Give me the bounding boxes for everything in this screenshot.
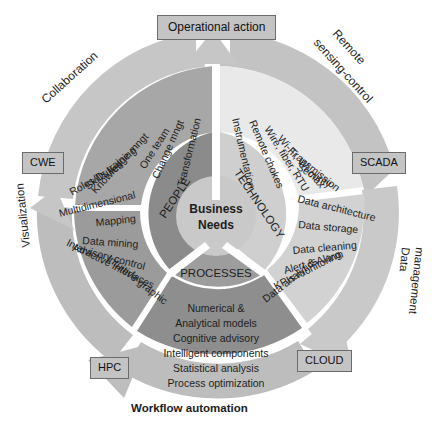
processes-item-5: Process optimization xyxy=(168,377,265,389)
processes-item-4: Statistical analysis xyxy=(173,362,259,374)
outer-label-visualization: Visualization xyxy=(13,183,32,248)
hub-label-processes: PROCESSES xyxy=(180,267,252,279)
center-label-line2: Needs xyxy=(198,218,234,232)
center-label-line1: Business xyxy=(189,202,243,216)
label-cwe[interactable]: CWE xyxy=(22,152,64,174)
diagram-canvas: Business Needs PEOPLE TECHNOLOGY PROCESS… xyxy=(0,0,432,422)
processes-item-3: Intelligent components xyxy=(163,347,268,359)
processes-item-2: Cognitive advisory xyxy=(173,332,260,344)
center-up-arrow xyxy=(212,64,220,200)
label-scada[interactable]: SCADA xyxy=(352,152,406,174)
processes-item-1: Analytical models xyxy=(175,317,257,329)
caption-workflow-automation: Workflow automation xyxy=(131,402,248,414)
label-operational-action[interactable]: Operational action xyxy=(157,15,276,40)
label-hpc[interactable]: HPC xyxy=(90,357,129,379)
processes-item-0: Numerical & xyxy=(187,302,244,314)
label-cloud[interactable]: CLOUD xyxy=(297,350,352,372)
outer-label-data-management-line1: Data xyxy=(397,247,412,273)
capability-wheel: Business Needs PEOPLE TECHNOLOGY PROCESS… xyxy=(0,0,432,422)
